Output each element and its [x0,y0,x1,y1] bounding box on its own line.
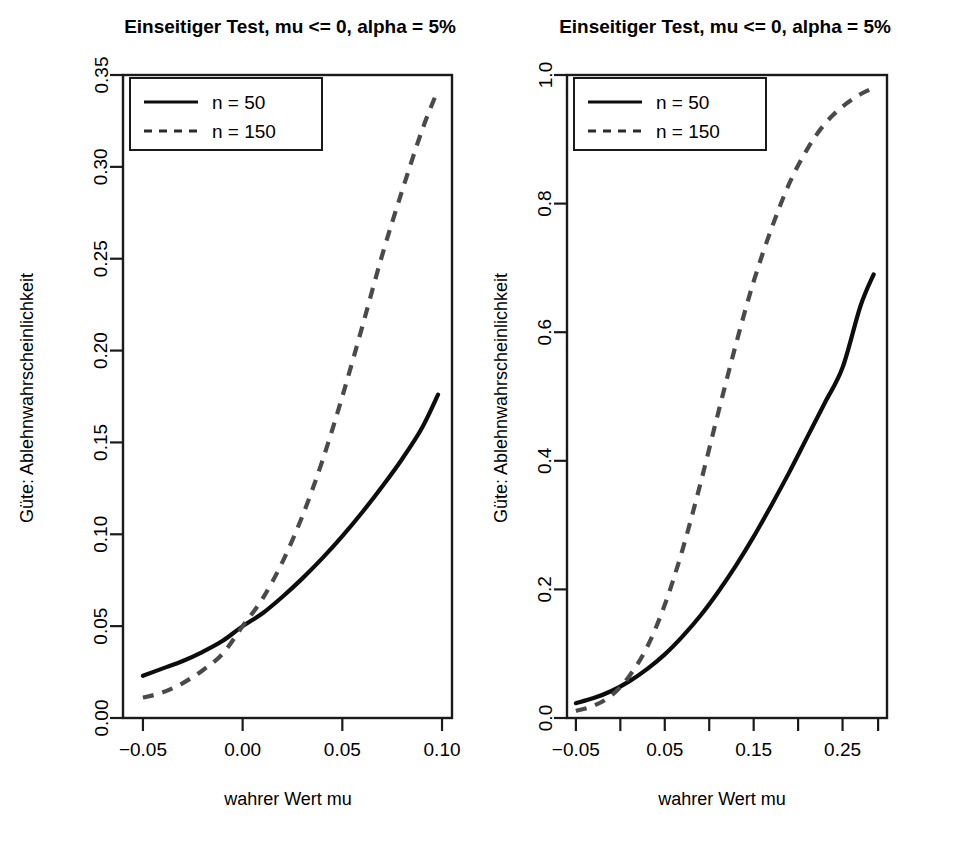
y-tick-label: 0.20 [91,332,112,369]
y-axis-label-right: Güte: Ablehnwahrscheinlichkeit [491,273,511,523]
x-tick-label: −0.05 [552,739,600,760]
legend-item-label: n = 50 [656,92,709,113]
x-axis-label-right: wahrer Wert mu [657,789,786,809]
y-tick-label: 0.4 [535,447,556,474]
y-tick-label: 0.30 [91,148,112,185]
legend-item-label: n = 50 [212,92,265,113]
series-line-solid [143,395,438,676]
y-tick-label: 0.8 [535,190,556,216]
plot-area-left: 0.000.050.100.150.200.250.300.35−0.050.0… [91,57,461,760]
y-tick-label: 0.05 [91,608,112,645]
figure-canvas: Einseitiger Test, mu <= 0, alpha = 5% 0.… [0,0,967,850]
x-tick-label: 0.00 [224,739,261,760]
y-tick-label: 0.6 [535,319,556,345]
legend-left[interactable]: n = 50n = 150 [130,78,322,150]
y-tick-label: 0.15 [91,424,112,461]
chart-svg-left: Einseitiger Test, mu <= 0, alpha = 5% 0.… [0,0,500,850]
chart-panel-left: Einseitiger Test, mu <= 0, alpha = 5% 0.… [0,0,500,850]
chart-panel-right: Einseitiger Test, mu <= 0, alpha = 5% 0.… [467,0,967,850]
plot-area-right: 0.00.20.40.60.81.0−0.050.050.150.25 [535,62,888,760]
y-tick-label: 1.0 [535,62,556,88]
x-tick-label: 0.05 [646,739,683,760]
legend-right[interactable]: n = 50n = 150 [574,78,766,150]
x-tick-label: 0.05 [324,739,361,760]
x-axis-label-left: wahrer Wert mu [223,789,352,809]
y-axis-label-left: Güte: Ablehnwahrscheinlichkeit [17,273,37,523]
panel-title-left: Einseitiger Test, mu <= 0, alpha = 5% [124,16,456,37]
x-tick-label: 0.10 [424,739,461,760]
x-tick-label: −0.05 [119,739,167,760]
y-tick-label: 0.00 [91,700,112,737]
x-tick-label: 0.25 [824,739,861,760]
legend-item-label: n = 150 [656,121,720,142]
y-tick-label: 0.25 [91,240,112,277]
panel-title-right: Einseitiger Test, mu <= 0, alpha = 5% [559,16,891,37]
y-tick-label: 0.35 [91,57,112,94]
series-line-dashed [143,90,438,698]
series-line-solid [576,274,874,703]
y-tick-label: 0.0 [535,705,556,731]
x-tick-label: 0.15 [735,739,772,760]
legend-item-label: n = 150 [212,121,276,142]
y-tick-label: 0.10 [91,516,112,553]
chart-svg-right: Einseitiger Test, mu <= 0, alpha = 5% 0.… [467,0,967,850]
y-tick-label: 0.2 [535,576,556,602]
